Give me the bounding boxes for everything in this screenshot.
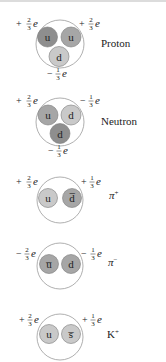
particle-name: Proton	[101, 37, 131, 49]
svg-text:2: 2	[27, 93, 31, 101]
svg-text:−: −	[48, 145, 54, 156]
svg-text:3: 3	[90, 182, 94, 190]
particle-name: π+	[109, 189, 119, 201]
charge-label: − 2 3 e	[16, 246, 36, 262]
proton-group: u u d + 2 3 e + 2 3 e − 1 3 e Proton	[16, 16, 131, 82]
svg-text:3: 3	[89, 24, 93, 32]
particle-name: π−	[108, 256, 118, 268]
svg-text:1: 1	[91, 312, 95, 320]
pi-plus-group: u d̅ + 2 3 e + 1 3 e π+	[16, 174, 119, 223]
quark-composition-diagram: u u d + 2 3 e + 2 3 e − 1 3 e Proton	[0, 0, 166, 362]
svg-text:3: 3	[27, 101, 31, 109]
charge-label: + 2 3 e	[16, 174, 38, 190]
charge-label: + 2 3 e	[16, 16, 38, 32]
kaon-plus-group: u s̅ + 2 3 e + 1 3 e K+	[19, 312, 119, 360]
svg-text:1: 1	[90, 174, 94, 182]
svg-text:3: 3	[57, 151, 61, 159]
svg-text:2: 2	[25, 246, 29, 254]
pi-minus-group: u̅ d − 2 3 e − 1 3 e π−	[16, 243, 118, 289]
svg-text:3: 3	[27, 24, 31, 32]
svg-text:+: +	[16, 95, 22, 106]
svg-text:3: 3	[27, 182, 31, 190]
svg-text:1: 1	[56, 66, 60, 74]
svg-text:+: +	[82, 314, 88, 325]
svg-text:+: +	[81, 176, 87, 187]
svg-text:−: −	[80, 95, 86, 106]
svg-text:2: 2	[28, 312, 32, 320]
svg-text:+: +	[16, 176, 22, 187]
particle-name: K+	[107, 328, 119, 340]
charge-label: − 1 3 e	[48, 143, 68, 159]
svg-text:−: −	[81, 248, 87, 259]
svg-text:e: e	[96, 175, 101, 187]
charge-label: + 2 3 e	[16, 93, 38, 109]
quark-label: u	[45, 109, 51, 121]
svg-text:e: e	[97, 247, 102, 259]
charge-label: + 2 3 e	[19, 312, 39, 328]
svg-text:e: e	[31, 247, 36, 259]
svg-text:3: 3	[89, 101, 93, 109]
quark-label: d	[57, 128, 63, 140]
svg-text:1: 1	[91, 246, 95, 254]
svg-text:3: 3	[28, 320, 32, 328]
charge-label: − 1 3 e	[80, 93, 100, 109]
quark-label: u	[45, 192, 51, 204]
svg-text:+: +	[19, 314, 25, 325]
svg-text:+: +	[16, 18, 22, 29]
svg-text:e: e	[33, 94, 38, 106]
neutron-group: u d d + 2 3 e − 1 3 e − 1 3 e Neutron	[16, 93, 138, 159]
quark-label: d	[56, 51, 62, 63]
quark-label: u	[45, 31, 51, 43]
svg-text:2: 2	[27, 16, 31, 24]
svg-text:2: 2	[27, 174, 31, 182]
svg-text:3: 3	[25, 254, 29, 262]
svg-text:2: 2	[89, 16, 93, 24]
svg-text:1: 1	[57, 143, 61, 151]
charge-label: + 2 3 e	[79, 16, 100, 32]
quark-label: d	[68, 109, 74, 121]
quark-label: u	[68, 31, 74, 43]
svg-text:3: 3	[91, 320, 95, 328]
svg-text:e: e	[34, 313, 39, 325]
svg-text:e: e	[95, 94, 100, 106]
svg-text:e: e	[63, 144, 68, 156]
svg-text:e: e	[33, 175, 38, 187]
quark-label: d̅	[69, 192, 75, 204]
svg-text:e: e	[97, 313, 102, 325]
svg-text:3: 3	[91, 254, 95, 262]
particle-name: Neutron	[101, 115, 138, 127]
quark-label: d	[68, 258, 74, 270]
svg-text:e: e	[95, 17, 100, 29]
svg-text:−: −	[16, 248, 22, 259]
quark-label: u	[46, 328, 52, 340]
svg-text:e: e	[33, 17, 38, 29]
svg-text:3: 3	[56, 74, 60, 82]
svg-text:−: −	[47, 68, 53, 79]
charge-label: − 1 3 e	[81, 246, 102, 262]
charge-label: + 1 3 e	[82, 312, 102, 328]
svg-text:+: +	[79, 18, 85, 29]
charge-label: + 1 3 e	[81, 174, 101, 190]
svg-text:1: 1	[89, 93, 93, 101]
svg-text:e: e	[62, 67, 67, 79]
charge-label: − 1 3 e	[47, 66, 67, 82]
quark-label: u̅	[46, 258, 53, 270]
